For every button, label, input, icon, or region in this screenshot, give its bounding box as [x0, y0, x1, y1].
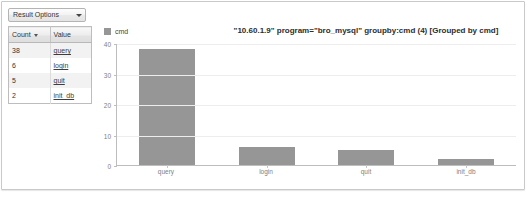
legend-label: cmd [115, 28, 128, 35]
gridline [117, 136, 516, 137]
column-header-value[interactable]: Value [50, 27, 92, 43]
bar[interactable] [239, 147, 295, 165]
bar[interactable] [139, 49, 195, 165]
cell-value: login [50, 58, 92, 73]
cell-value: query [50, 43, 92, 59]
y-axis-tick-label: 10 [104, 132, 111, 139]
plot-wrapper: 010203040 queryloginquitinit_db [98, 44, 516, 183]
y-axis-tick-mark [114, 136, 117, 137]
chevron-down-icon [76, 14, 82, 17]
y-axis-tick-mark [114, 105, 117, 106]
value-link[interactable]: quit [54, 77, 65, 84]
x-axis-labels: queryloginquitinit_db [116, 168, 516, 175]
y-axis-tick-label: 20 [104, 102, 111, 109]
results-table-head: Count Value [9, 27, 92, 43]
table-row[interactable]: 5 quit [9, 73, 92, 88]
x-axis-tick-label: quit [316, 168, 416, 175]
sort-descending-icon [34, 34, 38, 37]
cell-count: 2 [9, 88, 51, 104]
result-options-button[interactable]: Result Options [8, 8, 86, 22]
table-header-row: Count Value [9, 27, 92, 43]
column-header-value-label: Value [54, 31, 71, 38]
result-options-label: Result Options [13, 9, 59, 21]
y-axis-tick-mark [114, 75, 117, 76]
x-axis-tick-label: init_db [416, 168, 516, 175]
gridline [117, 75, 516, 76]
cell-count: 6 [9, 58, 51, 73]
table-row[interactable]: 38 query [9, 43, 92, 59]
bar[interactable] [338, 150, 394, 165]
gridline [117, 105, 516, 106]
column-header-count[interactable]: Count [9, 27, 51, 43]
chart-legend: cmd [104, 28, 128, 35]
x-axis-tick-label: login [216, 168, 316, 175]
table-row[interactable]: 2 init_db [9, 88, 92, 104]
plot-canvas [116, 44, 516, 166]
screenshot-root: Result Options Count Value [0, 0, 530, 199]
y-axis-tick-mark [114, 44, 117, 45]
results-table: Count Value 38 query 6 login [8, 26, 92, 104]
y-axis-tick-label: 30 [104, 71, 111, 78]
gridline [117, 44, 516, 45]
y-axis-tick-label: 40 [104, 41, 111, 48]
results-pane: Result Options Count Value [8, 8, 92, 104]
result-panel: Result Options Count Value [1, 1, 525, 190]
x-axis-tick-label: query [116, 168, 216, 175]
table-row[interactable]: 6 login [9, 58, 92, 73]
y-axis-labels: 010203040 [98, 44, 114, 166]
y-axis-tick-mark [114, 166, 117, 167]
cell-value: quit [50, 73, 92, 88]
results-table-body: 38 query 6 login 5 quit 2 init_db [9, 43, 92, 104]
cell-value: init_db [50, 88, 92, 104]
y-axis-tick-label: 0 [107, 163, 111, 170]
chart-title: "10.60.1.9" program="bro_mysql" groupby:… [218, 26, 514, 35]
chart-area: cmd "10.60.1.9" program="bro_mysql" grou… [98, 8, 518, 183]
value-link[interactable]: query [54, 47, 72, 54]
column-header-count-label: Count [12, 31, 31, 38]
value-link[interactable]: login [54, 62, 69, 69]
legend-swatch-icon [104, 28, 111, 35]
cell-count: 5 [9, 73, 51, 88]
cell-count: 38 [9, 43, 51, 59]
value-link[interactable]: init_db [54, 92, 75, 99]
